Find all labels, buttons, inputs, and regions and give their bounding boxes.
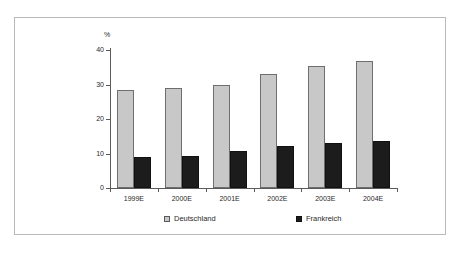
legend-item-frankreich[interactable]: Frankreich	[296, 214, 341, 224]
y-axis-unit-label: %	[104, 30, 110, 39]
x-tick-mark	[158, 188, 159, 192]
x-tick-label: 2000E	[158, 194, 206, 203]
y-tick-label: 20	[86, 115, 104, 123]
chart-legend: Deutschland Frankreich	[110, 214, 400, 228]
x-tick-label: 2003E	[301, 194, 349, 203]
x-tick-label: 2004E	[349, 194, 397, 203]
legend-label-frankreich: Frankreich	[306, 214, 341, 224]
y-tick-mark	[106, 85, 110, 86]
bar-deutschland-1999E	[117, 90, 134, 188]
y-tick-label: 10	[86, 150, 104, 158]
bar-deutschland-2004E	[356, 61, 373, 188]
y-tick-mark	[106, 154, 110, 155]
bar-frankreich-2001E	[230, 151, 247, 188]
legend-label-deutschland: Deutschland	[174, 214, 216, 224]
bar-frankreich-1999E	[134, 157, 151, 188]
bar-deutschland-2001E	[213, 85, 230, 188]
x-tick-label: 2002E	[253, 194, 301, 203]
x-tick-mark	[254, 188, 255, 192]
x-tick-mark	[206, 188, 207, 192]
x-tick-mark	[349, 188, 350, 192]
bar-deutschland-2000E	[165, 88, 182, 188]
y-axis-line	[110, 48, 111, 189]
x-tick-label: 1999E	[110, 194, 158, 203]
y-tick-mark	[106, 50, 110, 51]
bar-frankreich-2004E	[373, 141, 390, 188]
bar-frankreich-2003E	[325, 143, 342, 188]
legend-swatch-icon-deutschland	[164, 216, 170, 222]
x-tick-mark	[397, 188, 398, 192]
y-tick-label: 0	[86, 184, 104, 192]
bar-frankreich-2002E	[277, 146, 294, 188]
bar-deutschland-2003E	[308, 66, 325, 188]
bar-deutschland-2002E	[260, 74, 277, 188]
y-tick-label: 40	[86, 46, 104, 54]
legend-swatch-icon-frankreich	[296, 216, 302, 222]
x-tick-mark	[110, 188, 111, 192]
chart-figure: % 010203040 1999E2000E2001E2002E2003E200…	[0, 0, 461, 253]
x-tick-mark	[301, 188, 302, 192]
y-tick-label: 30	[86, 81, 104, 89]
bar-frankreich-2000E	[182, 156, 199, 188]
y-tick-mark	[106, 119, 110, 120]
x-tick-label: 2001E	[206, 194, 254, 203]
legend-item-deutschland[interactable]: Deutschland	[164, 214, 216, 224]
